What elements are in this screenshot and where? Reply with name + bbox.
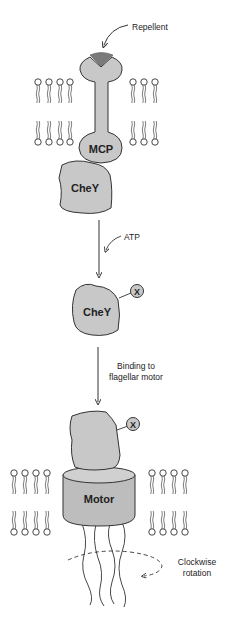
- repellent-arrow: [104, 25, 128, 45]
- chey-protein-2: CheY X: [72, 284, 143, 335]
- flagellar-motor: Motor: [63, 467, 135, 526]
- mcp-label: MCP: [89, 143, 113, 155]
- membrane-top-left: [35, 79, 73, 145]
- chey-protein-1: CheY: [59, 161, 112, 214]
- mcp-receptor: MCP: [79, 53, 122, 164]
- membrane-top-right: [130, 79, 158, 145]
- chey-protein-3: X: [70, 411, 140, 470]
- flagellar-filaments: [82, 522, 126, 607]
- chey-label-1: CheY: [71, 182, 100, 194]
- chey-label-2: CheY: [83, 306, 112, 318]
- binding-label-line2: flagellar motor: [109, 372, 163, 382]
- rotation-label-line2: rotation: [183, 568, 212, 578]
- membrane-bottom-left: [11, 470, 50, 535]
- rotation-label-line1: Clockwise: [178, 557, 217, 567]
- membrane-bottom-right: [149, 470, 188, 535]
- chemotaxis-diagram: Repellent MCP CheY ATP CheY X Binding to…: [0, 0, 228, 621]
- repellent-label: Repellent: [132, 22, 169, 32]
- atp-label: ATP: [124, 232, 140, 242]
- motor-label: Motor: [84, 493, 115, 505]
- atp-arrow: [106, 236, 121, 250]
- binding-label-line1: Binding to: [117, 361, 155, 371]
- phosphate-label-3: X: [130, 420, 136, 430]
- phosphate-label-2: X: [134, 287, 140, 297]
